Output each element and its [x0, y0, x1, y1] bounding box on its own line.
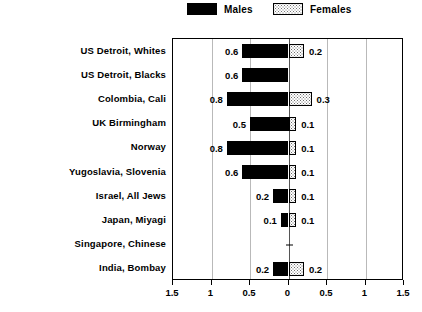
- plot-area: 0.60.20.60.80.30.50.10.80.10.60.10.20.10…: [172, 38, 403, 280]
- axis-tick-label: 1.5: [152, 287, 192, 298]
- axis-tick-label: 0.5: [306, 287, 346, 298]
- legend-item-males: Males: [187, 3, 253, 15]
- bar-female: [289, 189, 297, 203]
- bar-value-female: 0.1: [301, 215, 314, 226]
- bar-female: [289, 262, 304, 276]
- bar-value-female: 0.2: [309, 263, 322, 274]
- bar-row: 0.6: [173, 63, 404, 87]
- axis-tick: [326, 280, 327, 285]
- legend-item-females: Females: [273, 3, 351, 15]
- category-label: Norway: [0, 141, 166, 152]
- legend-swatch-females-icon: [273, 3, 303, 15]
- bar-row: 0.60.1: [173, 160, 404, 184]
- bar-value-female: 0.1: [301, 118, 314, 129]
- bar-row: 0.80.3: [173, 87, 404, 111]
- bar-male: [273, 189, 288, 203]
- legend-label-males: Males: [224, 4, 253, 15]
- axis-tick-label: 1: [191, 287, 231, 298]
- bar-value-male: 0.6: [225, 167, 238, 178]
- bar-male: [227, 141, 289, 155]
- axis-tick: [288, 280, 289, 285]
- bar-value-male: 0.1: [264, 215, 277, 226]
- category-label: UK Birmingham: [0, 117, 166, 128]
- legend-swatch-males-icon: [187, 3, 217, 15]
- bar-value-female: 0.1: [301, 167, 314, 178]
- bar-value-male: 0.2: [256, 263, 269, 274]
- bar-male: [250, 117, 289, 131]
- axis-tick: [249, 280, 250, 285]
- category-label: Israel, All Jews: [0, 190, 166, 201]
- bar-value-male: 0.5: [233, 118, 246, 129]
- bar-male: [242, 68, 288, 82]
- bar-male: [227, 92, 289, 106]
- category-label: US Detroit, Whites: [0, 45, 166, 56]
- value-axis: 1.510.500.511.5: [172, 280, 403, 310]
- bar-value-female: 0.1: [301, 191, 314, 202]
- bar-value-male: 0.2: [256, 191, 269, 202]
- category-label: Japan, Miyagi: [0, 214, 166, 225]
- bar-female: [289, 141, 297, 155]
- bar-male: [273, 262, 288, 276]
- axis-tick: [211, 280, 212, 285]
- bar-male: [281, 213, 289, 227]
- bar-male: [242, 165, 288, 179]
- axis-tick-label: 1.5: [383, 287, 422, 298]
- bar-female: [289, 117, 297, 131]
- bar-row: 0.60.2: [173, 39, 404, 63]
- axis-tick: [403, 280, 404, 285]
- category-label: US Detroit, Blacks: [0, 69, 166, 80]
- bar-male: [242, 44, 288, 58]
- bar-value-female: 0.2: [309, 46, 322, 57]
- bar-row: [173, 233, 404, 257]
- bar-row: 0.50.1: [173, 112, 404, 136]
- category-label: Singapore, Chinese: [0, 238, 166, 249]
- bar-row: 0.80.1: [173, 136, 404, 160]
- bar-female: [289, 165, 297, 179]
- category-axis-labels: US Detroit, WhitesUS Detroit, BlacksColo…: [0, 38, 166, 280]
- bar-female: [289, 44, 304, 58]
- bar-value-female: 0.3: [317, 94, 330, 105]
- bar-female: [289, 213, 297, 227]
- legend-label-females: Females: [310, 4, 351, 15]
- bar-chart: Males Females US Detroit, WhitesUS Detro…: [0, 0, 422, 312]
- category-label: Yugoslavia, Slovenia: [0, 166, 166, 177]
- bar-value-male: 0.6: [225, 46, 238, 57]
- axis-tick-label: 1: [345, 287, 385, 298]
- bar-value-male: 0.8: [210, 94, 223, 105]
- axis-tick: [172, 280, 173, 285]
- bar-value-male: 0.6: [225, 70, 238, 81]
- category-label: India, Bombay: [0, 262, 166, 273]
- category-label: Colombia, Cali: [0, 93, 166, 104]
- axis-tick-label: 0.5: [229, 287, 269, 298]
- bar-female: [289, 92, 312, 106]
- axis-tick: [365, 280, 366, 285]
- bar-value-male: 0.8: [210, 142, 223, 153]
- bar-row: 0.20.1: [173, 184, 404, 208]
- bar-row: 0.20.2: [173, 257, 404, 281]
- axis-tick-label: 0: [268, 287, 308, 298]
- bar-row: 0.10.1: [173, 208, 404, 232]
- bar-value-female: 0.1: [301, 142, 314, 153]
- empty-row-marker: [286, 244, 293, 245]
- chart-legend: Males Females: [0, 3, 422, 23]
